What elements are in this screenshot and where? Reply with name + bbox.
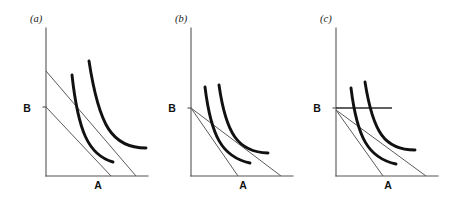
lower-indifference-curve <box>351 88 396 164</box>
y-axis-label: B <box>23 102 31 114</box>
lower-indifference-curve <box>72 75 113 162</box>
upper-indifference-curve <box>89 61 146 148</box>
outer-budget-line <box>336 110 426 176</box>
x-axis-label: A <box>239 179 247 191</box>
inner-budget-line <box>336 110 383 176</box>
outer-budget-line <box>46 71 136 176</box>
panel-b: (b)AB <box>168 13 293 191</box>
panel-c: (c)AB <box>313 13 438 191</box>
y-axis-label: B <box>313 102 321 114</box>
y-axis-label: B <box>168 102 176 114</box>
upper-indifference-curve <box>365 82 415 150</box>
x-axis-label: A <box>384 179 392 191</box>
inner-budget-line <box>191 108 238 176</box>
panel-tag-label: (a) <box>30 13 43 25</box>
panel-tag-label: (c) <box>320 13 332 25</box>
x-axis-label: A <box>94 179 102 191</box>
panel-tag-label: (b) <box>175 13 188 25</box>
outer-budget-line <box>191 108 281 176</box>
economics-indifference-curve-figure: (a)AB(b)AB(c)AB <box>0 0 449 198</box>
upper-indifference-curve <box>219 85 268 153</box>
panel-a: (a)AB <box>23 13 148 191</box>
figure-canvas: (a)AB(b)AB(c)AB <box>0 0 449 198</box>
